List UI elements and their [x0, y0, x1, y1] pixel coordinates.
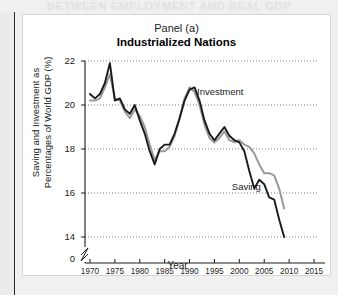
plot-area: InvestmentSaving [23, 15, 332, 277]
page-spine-rule [14, 12, 15, 295]
series-annotation-investment: Investment [197, 86, 244, 97]
page-margin [0, 12, 14, 295]
figure-card: Panel (a) Industrialized Nations Saving … [22, 14, 331, 276]
series-annotation-saving: Saving [232, 181, 261, 192]
running-header: BETWEEN EMPLOYMENT AND REAL GDP [0, 0, 338, 13]
line-chart: Saving and Investment as Percentages of … [23, 15, 332, 277]
